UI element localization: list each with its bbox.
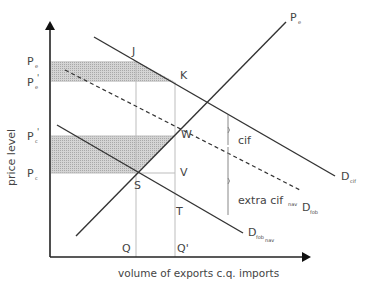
svg-text:': ' bbox=[37, 74, 39, 83]
curve-label-supply-pe: P e bbox=[290, 11, 301, 25]
svg-text:extra cif: extra cif bbox=[238, 194, 284, 207]
svg-text:cif: cif bbox=[350, 178, 356, 184]
svg-text:nav: nav bbox=[288, 201, 297, 207]
curve-label-d-fob-nav: D fob nav bbox=[248, 226, 274, 243]
svg-text:D: D bbox=[341, 170, 349, 183]
svg-text:c: c bbox=[35, 175, 38, 181]
svg-text:P: P bbox=[27, 130, 34, 143]
point-label-j: J bbox=[131, 45, 135, 58]
svg-text:e: e bbox=[298, 19, 301, 25]
curve-label-d-cif: D cif bbox=[341, 170, 356, 184]
svg-text:e: e bbox=[35, 63, 38, 69]
svg-text:fob: fob bbox=[256, 234, 264, 240]
svg-text:c: c bbox=[35, 138, 38, 144]
y-axis-title: price level bbox=[5, 129, 18, 186]
shaded-area-export-tax bbox=[51, 61, 175, 82]
svg-text:e: e bbox=[35, 84, 38, 90]
x-axis-arrow-icon bbox=[302, 252, 311, 262]
brace-label-cif: cif bbox=[238, 134, 252, 147]
svg-text:P: P bbox=[27, 76, 34, 89]
price-label-pe: P e bbox=[27, 55, 38, 69]
svg-text:P: P bbox=[290, 11, 297, 24]
svg-text:': ' bbox=[37, 128, 39, 137]
brace-extra-cif bbox=[228, 147, 230, 215]
trade-diagram: price level volume of exports c.q. impor… bbox=[0, 0, 373, 288]
quantity-label-q: Q bbox=[122, 242, 131, 255]
quantity-label-q-prime: Q' bbox=[177, 242, 189, 255]
brace-label-extra-cif: extra cif nav bbox=[238, 194, 297, 207]
x-axis-title: volume of exports c.q. imports bbox=[118, 267, 279, 279]
svg-text:P: P bbox=[27, 55, 34, 68]
svg-text:nav: nav bbox=[265, 237, 274, 243]
point-label-t: T bbox=[175, 205, 183, 218]
curve-label-d-fob: D fob bbox=[302, 201, 318, 215]
point-label-s: S bbox=[134, 179, 141, 192]
point-label-k: K bbox=[180, 69, 188, 82]
point-label-w: W bbox=[181, 128, 192, 141]
y-axis-arrow-icon bbox=[45, 21, 55, 30]
price-label-pe-prime: P e ' bbox=[27, 74, 39, 90]
svg-text:P: P bbox=[27, 167, 34, 180]
svg-text:fob: fob bbox=[310, 209, 318, 215]
point-label-v: V bbox=[180, 166, 188, 179]
brace-cif bbox=[228, 115, 230, 145]
price-label-pc: P c bbox=[27, 167, 38, 181]
price-label-pc-prime: P c ' bbox=[27, 128, 39, 144]
